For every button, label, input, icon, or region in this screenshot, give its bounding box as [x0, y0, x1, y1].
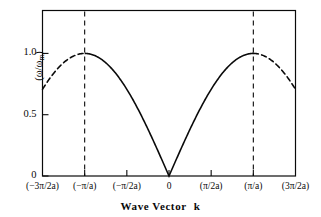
x-tick-label: (π/a): [244, 181, 262, 191]
dispersion-curve-dashed-right: [253, 53, 295, 89]
y-tick-label: 1.0: [11, 46, 37, 57]
zone-boundary-lines: [85, 12, 254, 177]
x-tick-label: (−3π/2a): [26, 181, 59, 191]
x-tick-label: (π/2a): [200, 181, 223, 191]
omega-symbol: ω: [33, 70, 44, 77]
y-axis-label: (ω/ωm): [33, 31, 49, 101]
x-tick-label: (−π/a): [73, 181, 96, 191]
x-tick-label: (3π/2a): [282, 181, 309, 191]
x-axis-title-main: Wave Vector: [121, 200, 187, 212]
x-axis-title-symbol: k: [194, 200, 201, 212]
x-tick-label: (−π/2a): [113, 181, 141, 191]
y-tick-label: 0.5: [11, 108, 37, 119]
omega-m-subscript: m: [37, 55, 46, 61]
plot-frame: [43, 11, 296, 177]
x-tick-label: 0: [167, 181, 172, 191]
phonon-dispersion-figure: (ω/ωm) 00.51.0 (−3π/2a)(−π/a)(−π/2a)0(π/…: [0, 0, 321, 217]
omega-m-symbol: ω: [33, 61, 44, 68]
x-axis-title: Wave Vectork: [0, 200, 321, 212]
y-tick-label: 0: [11, 169, 37, 180]
dispersion-curve-solid: [85, 53, 254, 176]
